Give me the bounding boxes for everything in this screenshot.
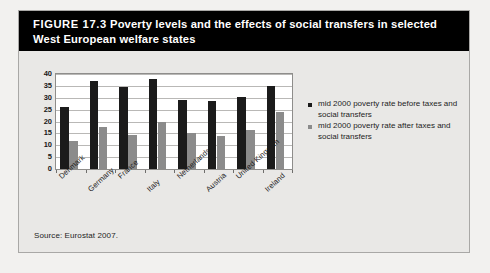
bar-group xyxy=(145,74,175,169)
bar xyxy=(208,101,217,169)
bar xyxy=(237,97,246,169)
chart-legend: mid 2000 poverty rate before taxes and s… xyxy=(308,99,468,143)
y-axis-tick-label: 5 xyxy=(48,153,52,161)
bar xyxy=(99,127,108,169)
bar xyxy=(158,122,167,170)
y-axis-tick-label: 20 xyxy=(44,118,52,126)
legend-item-after: mid 2000 poverty rate after taxes and so… xyxy=(308,121,468,142)
y-axis-tick-label: 10 xyxy=(44,142,52,150)
bar-group xyxy=(86,74,116,169)
bar xyxy=(119,87,128,169)
y-axis-tick-label: 15 xyxy=(44,130,52,138)
bar xyxy=(149,79,158,169)
bar xyxy=(90,81,99,169)
bar xyxy=(267,86,276,169)
chart-area: 0510152025303540 DenmarkGermanyFranceIta… xyxy=(19,51,469,254)
x-axis-category-labels: DenmarkGermanyFranceItalyNetherlandsAust… xyxy=(19,170,309,240)
bar-group xyxy=(115,74,145,169)
y-axis-tick-label: 30 xyxy=(44,94,52,102)
bar xyxy=(178,100,187,169)
figure-number: FIGURE 17.3 xyxy=(33,18,107,30)
legend-label-before: mid 2000 poverty rate before taxes and s… xyxy=(318,99,468,120)
figure-title-banner: FIGURE 17.3 Poverty levels and the effec… xyxy=(19,11,469,51)
y-axis-tick-label: 25 xyxy=(44,106,52,114)
x-axis-category-label: Ireland xyxy=(263,171,287,194)
bar xyxy=(60,107,69,169)
figure-source: Source: Eurostat 2007. xyxy=(34,231,118,240)
legend-swatch-icon-before xyxy=(308,103,312,107)
x-axis-category-label: Austria xyxy=(204,171,228,194)
figure-page: FIGURE 17.3 Poverty levels and the effec… xyxy=(0,0,490,273)
bar xyxy=(217,136,226,169)
y-axis-tick-label: 40 xyxy=(44,70,52,78)
legend-swatch-icon-after xyxy=(308,125,312,129)
x-axis-category-label: Germany xyxy=(86,166,116,194)
legend-label-after: mid 2000 poverty rate after taxes and so… xyxy=(318,121,468,142)
figure-container: FIGURE 17.3 Poverty levels and the effec… xyxy=(18,10,470,253)
legend-item-before: mid 2000 poverty rate before taxes and s… xyxy=(308,99,468,120)
y-axis-tick-label: 35 xyxy=(44,82,52,90)
x-axis-category-label: Italy xyxy=(145,177,162,193)
page-title: FIGURE 17.3 Poverty levels and the effec… xyxy=(33,17,457,46)
y-axis-tick-labels: 0510152025303540 xyxy=(27,73,53,170)
